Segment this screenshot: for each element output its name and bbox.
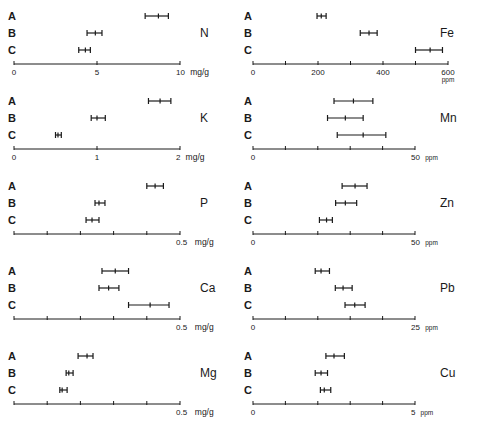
tick-label: 50	[411, 153, 420, 162]
error-bar	[315, 268, 329, 274]
error-bar	[337, 132, 386, 138]
error-bar	[326, 353, 344, 359]
group-label: B	[244, 27, 252, 39]
group-label: B	[244, 112, 252, 124]
element-label: Cu	[440, 366, 455, 380]
tick-label: 0.5	[176, 323, 188, 332]
group-label: A	[8, 95, 16, 107]
unit-label: ppm	[425, 239, 438, 247]
error-bar	[60, 387, 67, 393]
element-label: Zn	[440, 196, 454, 210]
tick-label: 1	[95, 153, 100, 162]
group-label: C	[244, 44, 252, 56]
group-label: B	[8, 282, 16, 294]
error-bar	[360, 30, 377, 36]
error-bar	[320, 387, 330, 393]
tick-label: 10	[176, 68, 185, 77]
error-bar	[416, 47, 443, 53]
element-label: P	[200, 196, 208, 210]
tick-label: 0	[12, 68, 17, 77]
x-axis	[14, 146, 180, 150]
element-label: N	[200, 26, 209, 40]
group-label: C	[8, 299, 16, 311]
error-bar	[319, 217, 332, 223]
x-axis	[14, 61, 180, 65]
group-label: B	[244, 282, 252, 294]
tick-label: 5	[95, 68, 100, 77]
element-label: K	[200, 111, 208, 125]
group-label: A	[244, 95, 252, 107]
group-label: C	[8, 44, 16, 56]
tick-label: 25	[411, 323, 420, 332]
unit-label: mg/g	[195, 237, 214, 247]
tick-label: 400	[376, 68, 390, 77]
error-bar	[56, 132, 62, 138]
x-axis	[14, 401, 180, 405]
group-label: A	[8, 265, 16, 277]
unit-label: ppm	[425, 154, 438, 162]
group-label: C	[244, 384, 252, 396]
error-bar	[66, 370, 73, 376]
unit-label: mg/g	[195, 407, 214, 417]
error-bar	[102, 268, 129, 274]
group-label: A	[244, 265, 252, 277]
panel-zn: ABCZn050ppm	[244, 180, 454, 247]
group-label: C	[8, 129, 16, 141]
error-bar	[99, 285, 119, 291]
unit-label: ppm	[425, 324, 438, 332]
nutrient-error-bar-chart: ABCN0510mg/gABCK012mg/gABCP0.5mg/gABCCa0…	[0, 0, 481, 426]
group-label: A	[8, 350, 16, 362]
error-bar	[145, 13, 168, 19]
group-label: A	[8, 10, 16, 22]
element-label: Pb	[440, 281, 455, 295]
x-axis	[253, 316, 415, 320]
group-label: C	[244, 299, 252, 311]
x-axis	[253, 61, 448, 65]
group-label: B	[244, 367, 252, 379]
unit-label: mg/g	[190, 67, 209, 77]
panel-k: ABCK012mg/g	[8, 95, 208, 162]
error-bar	[79, 47, 91, 53]
error-bar	[342, 183, 367, 189]
error-bar	[334, 98, 373, 104]
error-bar	[91, 115, 105, 121]
tick-label: 200	[311, 68, 325, 77]
tick-label: 2	[176, 153, 181, 162]
tick-label: 0	[251, 68, 256, 77]
group-label: A	[244, 350, 252, 362]
panel-mn: ABCMn050ppm	[244, 95, 457, 162]
error-bar	[129, 302, 170, 308]
panel-p: ABCP0.5mg/g	[8, 180, 214, 247]
x-axis	[253, 146, 415, 150]
group-label: B	[8, 27, 16, 39]
error-bar	[87, 30, 102, 36]
group-label: C	[244, 129, 252, 141]
element-label: Mg	[200, 366, 217, 380]
unit-label: ppm	[421, 409, 434, 417]
unit-label: mg/g	[186, 152, 205, 162]
tick-label: 0.5	[176, 238, 188, 247]
unit-label: ppm	[442, 76, 455, 84]
error-bar	[315, 370, 327, 376]
panel-pb: ABCPb025ppm	[244, 265, 455, 332]
element-label: Ca	[200, 281, 216, 295]
group-label: B	[8, 367, 16, 379]
panel-mg: ABCMg0.5mg/g	[8, 350, 217, 417]
error-bar	[95, 200, 105, 206]
error-bar	[335, 285, 352, 291]
panel-cu: ABCCu05ppm	[244, 350, 455, 417]
error-bar	[86, 217, 99, 223]
error-bar	[148, 98, 170, 104]
panel-ca: ABCCa0.5mg/g	[8, 265, 216, 332]
group-label: B	[8, 112, 16, 124]
tick-label: 0	[12, 153, 17, 162]
tick-label: 50	[411, 238, 420, 247]
error-bar	[345, 302, 365, 308]
x-axis	[253, 231, 415, 235]
tick-label: 0.5	[176, 408, 188, 417]
error-bar	[78, 353, 93, 359]
group-label: B	[8, 197, 16, 209]
x-axis	[14, 231, 180, 235]
tick-label: 0	[251, 238, 256, 247]
unit-label: mg/g	[195, 322, 214, 332]
